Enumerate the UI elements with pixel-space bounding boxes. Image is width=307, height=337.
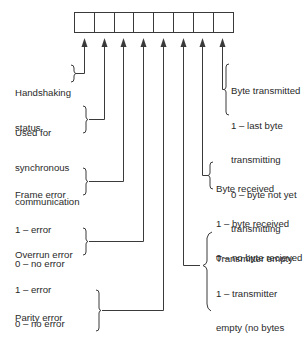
arrow-up-icon xyxy=(161,38,167,47)
frame-error-brace xyxy=(83,168,88,195)
arrow-up-icon xyxy=(102,38,108,47)
transmitter-empty-connector xyxy=(184,46,201,266)
byte-received-connector xyxy=(203,46,209,176)
arrow-up-icon xyxy=(82,38,88,47)
handshaking-connector xyxy=(76,46,85,74)
parity-error-connector xyxy=(102,46,164,311)
arrow-up-icon xyxy=(200,38,206,47)
synchronous-connector xyxy=(89,46,105,120)
transmitter-empty-brace xyxy=(203,232,212,311)
byte-transmitted-connector xyxy=(223,46,225,90)
synchronous-brace xyxy=(83,106,88,133)
arrow-up-icon xyxy=(141,38,147,47)
overrun-error-connector xyxy=(89,46,144,242)
overrun-error-brace xyxy=(83,228,88,255)
frame-error-connector xyxy=(89,46,124,182)
handshaking-brace xyxy=(71,65,76,82)
byte-received-brace xyxy=(208,162,213,189)
transmitter-empty-label: Transmitter empty 1 – transmitter empty … xyxy=(216,230,293,337)
register-box xyxy=(75,13,234,33)
arrow-up-icon xyxy=(121,38,127,47)
byte-transmitted-brace xyxy=(224,64,229,115)
arrow-up-icon xyxy=(181,38,187,47)
parity-error-label: Parity error 1 – error (parity has to be… xyxy=(15,289,99,337)
arrowheads xyxy=(82,38,226,47)
arrow-up-icon xyxy=(220,38,226,47)
